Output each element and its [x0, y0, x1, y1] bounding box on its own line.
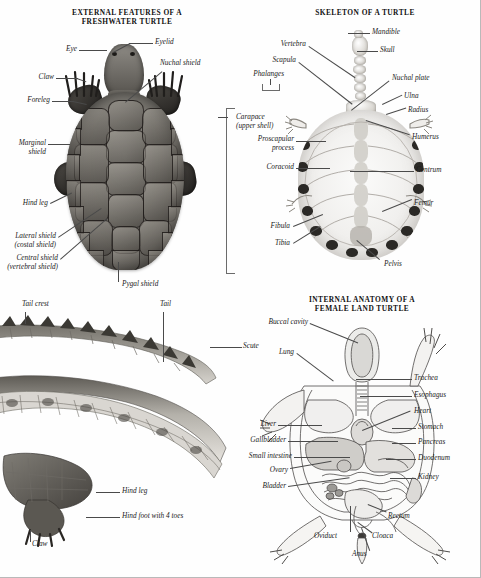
label-femur: Femur	[414, 199, 433, 208]
turtle-claw-left	[62, 70, 102, 98]
pygal-shield	[112, 250, 140, 270]
label-claw-croc: Claw	[32, 540, 47, 549]
label-hind-foot: Hind foot with 4 toes	[122, 512, 183, 521]
turtle-carapace	[66, 92, 184, 270]
label-pancreas: Pancreas	[418, 438, 445, 447]
label-claw: Claw	[20, 73, 54, 82]
label-coracoid: Coracoid	[242, 163, 294, 172]
leader-pygal-shield	[118, 262, 119, 282]
external-features-title: EXTERNAL FEATURES OF A FRESHWATER TURTLE	[62, 8, 192, 27]
label-stomach: Stomach	[418, 423, 443, 432]
leader-phalanges	[270, 79, 271, 85]
central-shield	[108, 194, 144, 228]
skeleton-title-line1: SKELETON OF A TURTLE	[295, 8, 435, 17]
marginal-shield	[66, 128, 81, 156]
leader-scute	[210, 347, 242, 348]
carapace-bracket	[226, 108, 235, 274]
leader-tail-crest	[25, 312, 26, 324]
marginal-shield	[170, 102, 184, 130]
leader-liver	[278, 425, 322, 426]
leader-proscapular-process	[296, 141, 326, 142]
panel-skeleton: SKELETON OF A TURTLE	[240, 0, 481, 290]
central-shield	[106, 162, 146, 196]
label-proscapular-line2: process	[232, 144, 294, 153]
humerus-right	[410, 119, 429, 128]
fibula-tibia-left	[286, 200, 295, 212]
label-lung: Lung	[258, 348, 294, 357]
leader-esophagus	[360, 396, 412, 397]
leader-carapace	[218, 117, 228, 118]
label-gallbladder: Gallbladder	[224, 436, 286, 445]
leader-marginal-shield	[48, 144, 70, 145]
label-buccal-cavity: Buccal cavity	[246, 318, 308, 327]
humerus-left	[290, 119, 306, 128]
marginal-shield	[148, 250, 170, 270]
label-vertebra: Vertebra	[258, 40, 306, 49]
label-bladder: Bladder	[238, 482, 286, 491]
label-skull: Skull	[380, 46, 395, 55]
hind-limb-silhouette	[0, 450, 130, 550]
marginal-shield	[66, 102, 82, 130]
external-features-title-line1: EXTERNAL FEATURES OF A	[62, 8, 192, 17]
leader-duodenum	[386, 459, 416, 460]
label-liver: Liver	[232, 420, 276, 429]
leader-stomach	[392, 428, 416, 429]
leader-small-intestine	[294, 457, 350, 458]
label-radius: Radius	[408, 106, 428, 115]
leader-oviduct	[350, 506, 351, 532]
label-humerus: Humerus	[412, 133, 439, 142]
leader-eyelid	[129, 43, 153, 44]
turtle-eye-right	[130, 52, 135, 56]
panel-crocodilian: Tail crest Tail Scute Hind leg Hind foot…	[0, 290, 250, 578]
crocodile-hind-limb	[0, 450, 130, 550]
label-rectum: Rectum	[388, 512, 410, 521]
leader-centrum	[350, 171, 414, 172]
leader-trachea	[356, 379, 412, 380]
leader-mandible	[348, 33, 370, 34]
turtle-claw-right	[146, 70, 186, 98]
leader-hind-leg-croc	[96, 492, 120, 493]
label-scapula: Scapula	[248, 56, 296, 65]
central-shield	[106, 130, 146, 164]
panel-external-features: EXTERNAL FEATURES OF A FRESHWATER TURTLE	[0, 0, 240, 290]
label-fibula: Fibula	[250, 222, 290, 231]
marginal-shield	[168, 206, 184, 234]
label-tibia: Tibia	[254, 239, 290, 248]
freshwater-turtle-illustration	[50, 42, 200, 272]
panel-internal-anatomy: INTERNAL ANATOMY OF A FEMALE LAND TURTLE	[240, 290, 481, 578]
label-kidney: Kidney	[418, 473, 439, 482]
label-duodenum: Duodenum	[418, 454, 450, 463]
leader-pancreas	[392, 443, 416, 444]
label-phalanges: Phalanges	[234, 70, 284, 79]
leader-eye	[79, 50, 107, 51]
leader-claw	[56, 78, 78, 79]
marginal-shield	[171, 180, 184, 208]
label-pelvis: Pelvis	[384, 260, 402, 269]
gallbladder	[337, 460, 351, 472]
label-mandible: Mandible	[372, 28, 400, 37]
label-centrum: Centrum	[416, 166, 442, 175]
marginal-shield	[171, 128, 184, 156]
leader-gallbladder	[288, 441, 338, 442]
turtle-skeleton-illustration	[284, 28, 434, 278]
internal-anatomy-title: INTERNAL ANATOMY OF A FEMALE LAND TURTLE	[292, 295, 432, 314]
label-oviduct: Oviduct	[314, 532, 337, 541]
leader-claw-croc	[30, 530, 31, 542]
label-ovary: Ovary	[244, 466, 288, 475]
internal-anatomy-title-line2: FEMALE LAND TURTLE	[292, 304, 432, 313]
turtle-head	[104, 44, 144, 96]
external-features-title-line2: FRESHWATER TURTLE	[62, 17, 192, 26]
label-tail-crest: Tail crest	[22, 300, 49, 309]
leader-hind-foot	[86, 517, 120, 518]
label-small-intestine: Small intestine	[218, 452, 292, 461]
label-hind-leg: Hind leg	[4, 199, 48, 208]
phalanges-bracket	[262, 84, 280, 91]
lung-left	[305, 400, 354, 433]
skeleton-title: SKELETON OF A TURTLE	[295, 8, 435, 17]
liver	[306, 437, 364, 470]
label-trachea: Trachea	[414, 374, 438, 383]
label-marginal-shield: Marginal shield	[0, 139, 46, 156]
label-eyelid: Eyelid	[155, 38, 174, 47]
leader-foreleg	[52, 101, 74, 102]
internal-anatomy-title-line1: INTERNAL ANATOMY OF A	[292, 295, 432, 304]
